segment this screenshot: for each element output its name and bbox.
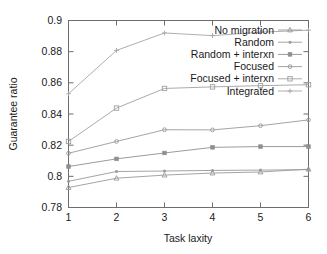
series-group [66, 28, 311, 190]
y-tick-label: 0.82 [42, 139, 63, 151]
series-line [69, 169, 309, 187]
x-tick-label: 4 [210, 211, 216, 223]
x-tick-label: 5 [258, 211, 264, 223]
y-tick-label: 0.88 [42, 45, 63, 57]
y-axis-title: Guarantee ratio [7, 77, 19, 150]
legend-label: Focused [234, 60, 274, 72]
data-point [163, 151, 167, 155]
data-point [163, 170, 166, 173]
legend-entry-no-migration: No migration [214, 24, 302, 36]
y-tick-label: 0.8 [47, 170, 62, 182]
x-tick-label: 6 [306, 211, 312, 223]
chart-figure: 0.780.80.820.840.860.880.9 123456 Task l… [0, 0, 327, 254]
legend-entry-focused-interxn: Focused + interxn [190, 72, 302, 84]
y-tick-label: 0.9 [47, 14, 62, 26]
data-point [162, 31, 167, 36]
series-focused-interxn [66, 83, 310, 144]
data-point [115, 157, 119, 161]
x-tick-label: 3 [162, 211, 168, 223]
series-line [69, 120, 309, 153]
series-integrated [66, 28, 311, 96]
data-point [67, 180, 70, 183]
y-axis-tick-labels: 0.780.80.820.840.860.880.9 [42, 14, 63, 213]
data-point [67, 165, 71, 169]
legend-marker [288, 53, 292, 57]
data-point [115, 170, 118, 173]
chart-legend: No migrationRandomRandom + interxnFocuse… [190, 24, 302, 97]
legend-entry-random: Random [234, 36, 302, 48]
guarantee-ratio-line-chart: 0.780.80.820.840.860.880.9 123456 Task l… [0, 0, 327, 254]
data-point [259, 145, 263, 149]
legend-label: Focused + interxn [190, 72, 274, 84]
series-random-interxn [67, 145, 311, 169]
legend-label: Random [234, 36, 274, 48]
legend-label: Random + interxn [191, 48, 274, 60]
data-point [306, 28, 311, 33]
series-focused [67, 118, 311, 155]
series-line [69, 147, 309, 167]
legend-marker [289, 41, 292, 44]
x-tick-label: 1 [66, 211, 72, 223]
x-tick-label: 2 [114, 211, 120, 223]
y-tick-label: 0.86 [42, 76, 63, 88]
legend-entry-focused: Focused [234, 60, 302, 72]
data-point [259, 169, 262, 172]
legend-label: No migration [214, 24, 274, 36]
x-axis-title: Task laxity [164, 232, 213, 244]
legend-entry-integrated: Integrated [227, 85, 302, 97]
x-axis-tick-labels: 123456 [66, 211, 312, 223]
y-tick-label: 0.78 [42, 201, 63, 213]
legend-entry-random-interxn: Random + interxn [191, 48, 302, 60]
data-point [307, 168, 310, 171]
data-point [211, 146, 215, 150]
y-tick-label: 0.84 [42, 108, 63, 120]
data-point [211, 169, 214, 172]
legend-marker [288, 89, 293, 94]
data-point [307, 145, 311, 149]
legend-label: Integrated [227, 85, 274, 97]
